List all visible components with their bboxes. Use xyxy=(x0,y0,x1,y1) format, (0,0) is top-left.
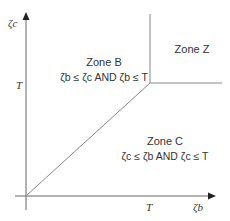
y-axis-tick-T: T xyxy=(16,79,22,91)
zone-c-condition: ζc ≤ ζb AND ζc ≤ T xyxy=(104,150,226,162)
zone-diagram: ζc T T ζb Zone B ζb ≤ ζc AND ζb ≤ T Zone… xyxy=(0,0,230,221)
zone-c-title: Zone C xyxy=(115,135,215,147)
x-axis-tick-T: T xyxy=(146,201,152,213)
zone-b-condition: ζb ≤ ζc AND ζb ≤ T xyxy=(40,71,168,83)
y-axis-arrow xyxy=(23,12,30,20)
y-axis-label: ζc xyxy=(8,17,17,29)
zone-z-title: Zone Z xyxy=(162,43,222,55)
x-axis-arrow xyxy=(208,193,216,200)
diagram-lines xyxy=(0,0,230,221)
zone-b-title: Zone B xyxy=(54,56,154,68)
x-axis-label: ζb xyxy=(193,201,203,213)
